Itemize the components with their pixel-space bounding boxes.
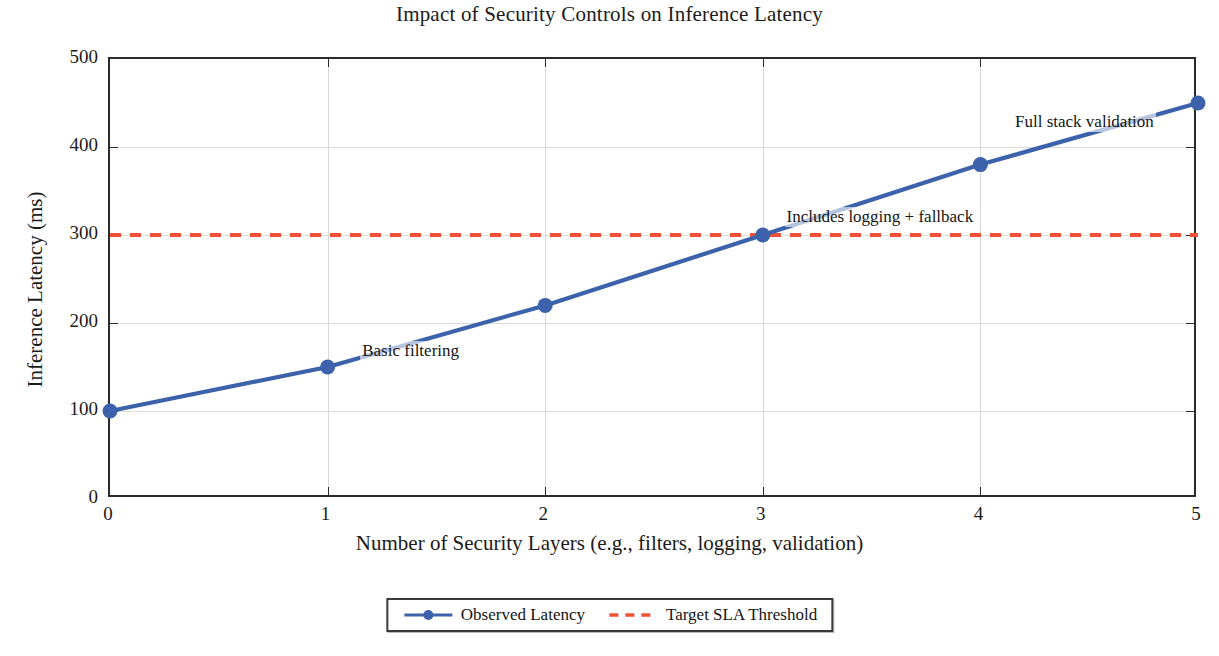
data-point-marker[interactable] — [973, 157, 988, 172]
y-tick-label-500: 500 — [70, 46, 99, 68]
plot-area: Basic filteringIncludes logging + fallba… — [108, 57, 1196, 497]
chart-figure: Impact of Security Controls on Inference… — [0, 0, 1219, 656]
chart-title: Impact of Security Controls on Inference… — [0, 2, 1219, 27]
legend-item-observed-latency[interactable]: Observed Latency — [402, 605, 585, 625]
data-point-marker[interactable] — [755, 228, 770, 243]
chart-legend: Observed Latency Target SLA Threshold — [386, 598, 833, 632]
legend-item-target-sla-threshold[interactable]: Target SLA Threshold — [607, 605, 817, 625]
x-tick-label-3: 3 — [756, 503, 766, 525]
chart-annotation: Full stack validation — [1013, 112, 1156, 132]
observed-latency-series — [103, 96, 1206, 419]
y-axis-title: Inference Latency (ms) — [23, 90, 48, 490]
y-tick-label-100: 100 — [70, 398, 99, 420]
data-point-marker[interactable] — [103, 404, 118, 419]
dashed-line-swatch-icon — [607, 608, 659, 622]
y-tick-label-0: 0 — [89, 486, 99, 508]
x-tick-label-2: 2 — [538, 503, 548, 525]
y-tick-label-200: 200 — [70, 310, 99, 332]
y-tick-label-400: 400 — [70, 134, 99, 156]
legend-label-observed-latency: Observed Latency — [461, 605, 585, 625]
line-marker-swatch-icon — [402, 608, 454, 622]
series-line — [110, 103, 1198, 411]
chart-annotation: Basic filtering — [360, 341, 461, 361]
x-tick-label-5: 5 — [1191, 503, 1201, 525]
chart-annotation: Includes logging + fallback — [785, 207, 976, 227]
x-tick-label-0: 0 — [103, 503, 113, 525]
x-axis-title: Number of Security Layers (e.g., filters… — [0, 531, 1219, 556]
y-tick-label-300: 300 — [70, 222, 99, 244]
legend-label-target-sla-threshold: Target SLA Threshold — [666, 605, 817, 625]
data-point-marker[interactable] — [320, 360, 335, 375]
x-tick-label-1: 1 — [321, 503, 331, 525]
data-point-marker[interactable] — [538, 298, 553, 313]
data-point-marker[interactable] — [1191, 96, 1206, 111]
x-tick-label-4: 4 — [974, 503, 984, 525]
